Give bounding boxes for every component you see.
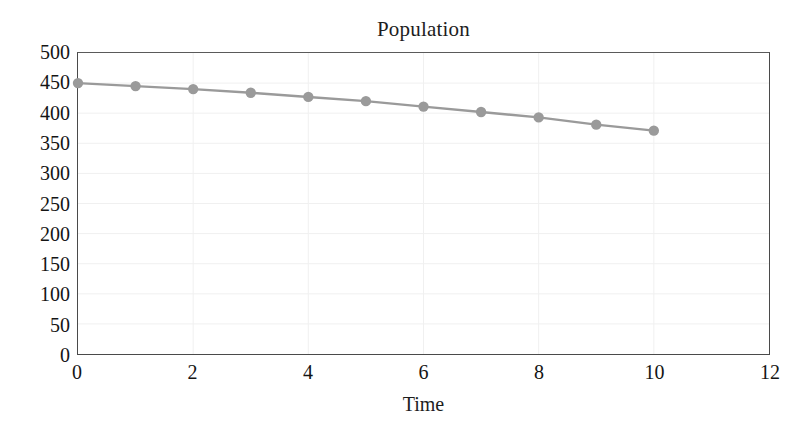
x-axis-tick-label: 4 [286,362,330,382]
x-axis-tick-label: 6 [402,362,446,382]
x-axis-title: Time [77,392,770,416]
y-axis-tick-label: 50 [22,315,70,335]
x-axis-tick-label: 8 [517,362,561,382]
chart-figure: Population 05010015020025030035040045050… [0,0,810,432]
plot-area [77,52,770,355]
x-axis-tick-label: 12 [748,362,792,382]
data-series-population [78,53,769,354]
y-axis-tick-labels: 050100150200250300350400450500 [12,52,70,355]
x-axis-tick-label: 2 [171,362,215,382]
y-axis-tick-label: 350 [22,133,70,153]
y-axis-tick-label: 500 [22,42,70,62]
y-axis-tick-label: 200 [22,224,70,244]
chart-title: Population [77,16,770,42]
x-axis-tick-label: 10 [633,362,677,382]
x-axis-tick-label: 0 [55,362,99,382]
y-axis-tick-label: 250 [22,194,70,214]
y-axis-tick-label: 300 [22,163,70,183]
x-axis-tick-labels: 024681012 [77,362,770,388]
y-axis-tick-label: 150 [22,254,70,274]
y-axis-tick-label: 450 [22,72,70,92]
y-axis-tick-label: 100 [22,284,70,304]
y-axis-tick-label: 400 [22,103,70,123]
